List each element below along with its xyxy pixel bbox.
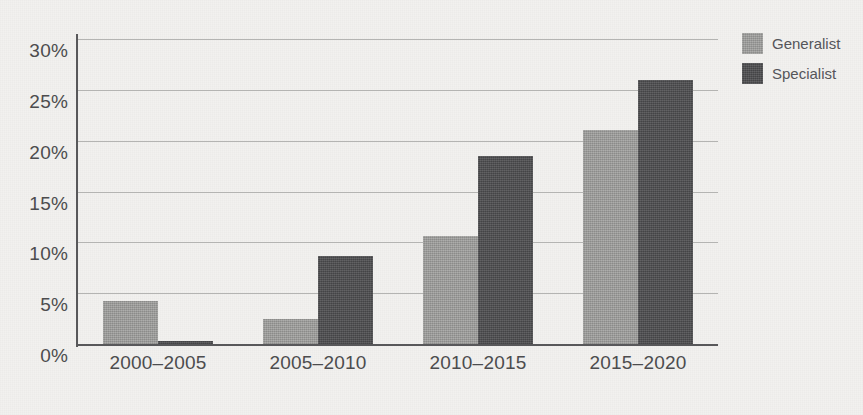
legend-swatch-icon [742,33,763,54]
bar-specialist [478,156,533,345]
legend-label: Specialist [772,65,836,82]
x-tick-label: 2010–2015 [398,352,558,374]
legend-item-generalist: Generalist [742,33,860,54]
bar-generalist [423,236,478,345]
bar-group [398,40,558,345]
legend-label: Generalist [772,35,840,52]
chart-legend: GeneralistSpecialist [742,33,860,93]
bar-group [238,40,398,345]
bar-generalist [263,319,318,345]
bar-specialist [318,256,373,345]
bar-generalist [103,301,158,345]
bar-chart-figure: 0%5%10%15%20%25%30% 2000–20052005–201020… [0,0,863,415]
x-tick-label: 2015–2020 [558,352,718,374]
y-axis-tick-labels: 0%5%10%15%20%25%30% [0,40,68,345]
x-tick-label: 2000–2005 [78,352,238,374]
bar-group [558,40,718,345]
x-axis-tick-labels: 2000–20052005–20102010–20152015–2020 [78,352,718,382]
bar-group [78,40,238,345]
legend-item-specialist: Specialist [742,63,860,84]
legend-swatch-icon [742,63,763,84]
x-tick-label: 2005–2010 [238,352,398,374]
x-axis-line [76,344,718,346]
bar-generalist [583,130,638,345]
bars-layer [78,40,718,345]
bar-specialist [638,80,693,345]
